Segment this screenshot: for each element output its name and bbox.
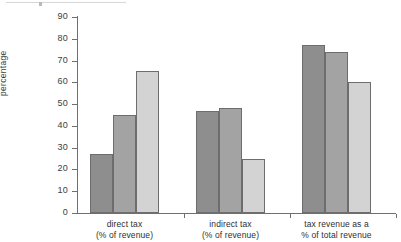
y-axis-tick-label: 10 — [28, 186, 68, 195]
x-axis-category-label: indirect tax(% of revenue) — [176, 219, 286, 241]
y-axis-title: percentage — [0, 50, 8, 96]
x-axis-line — [77, 213, 396, 214]
bar — [302, 45, 325, 213]
x-axis-category-label-line: direct tax — [70, 219, 180, 230]
y-axis-tick — [72, 169, 77, 170]
bar — [348, 82, 371, 213]
y-axis-tick — [72, 61, 77, 62]
y-axis-tick-label: 60 — [28, 77, 68, 86]
bar — [242, 159, 265, 213]
x-axis-category-label-line: indirect tax — [176, 219, 286, 230]
x-axis-category-label-line: (% of revenue) — [176, 230, 286, 241]
plot-area — [78, 17, 396, 213]
y-axis-tick-label: 90 — [28, 12, 68, 21]
x-axis-category-label-line: (% of revenue) — [70, 230, 180, 241]
y-axis-tick — [72, 17, 77, 18]
bar — [196, 111, 219, 213]
y-axis-tick-label: 40 — [28, 121, 68, 130]
y-axis-tick-label: 30 — [28, 143, 68, 152]
y-axis-tick — [72, 39, 77, 40]
bar — [113, 115, 136, 213]
y-axis-tick — [72, 213, 77, 214]
x-axis-tick — [396, 214, 397, 218]
x-axis-tick — [184, 214, 185, 218]
x-axis-category-label: tax revenue as a% of total revenue — [282, 219, 392, 241]
y-axis-tick-label: 20 — [28, 164, 68, 173]
x-axis-category-label: direct tax(% of revenue) — [70, 219, 180, 241]
x-axis-tick — [290, 214, 291, 218]
bar — [90, 154, 113, 213]
page-scan-artifact — [6, 2, 126, 3]
bar — [136, 71, 159, 213]
y-axis-tick — [72, 104, 77, 105]
y-axis-tick-label: 0 — [28, 208, 68, 217]
bar — [325, 52, 348, 213]
y-axis-tick — [72, 148, 77, 149]
page-scan-artifact-dot — [39, 2, 42, 6]
y-axis-tick — [72, 82, 77, 83]
y-axis-tick-label: 80 — [28, 34, 68, 43]
y-axis-tick-label: 50 — [28, 99, 68, 108]
x-axis-category-label-line: tax revenue as a — [282, 219, 392, 230]
x-axis-category-label-line: % of total revenue — [282, 230, 392, 241]
y-axis-tick — [72, 191, 77, 192]
bar — [219, 108, 242, 213]
y-axis-tick — [72, 126, 77, 127]
bar-chart: percentage 0102030405060708090 direct ta… — [0, 0, 401, 242]
y-axis-tick-label: 70 — [28, 56, 68, 65]
